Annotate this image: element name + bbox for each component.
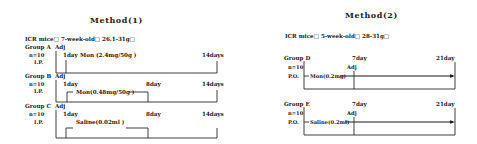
group-e-n: n=10: [288, 110, 304, 116]
group-e-route: P.O.: [288, 119, 299, 125]
group-a-n: n=10: [29, 52, 45, 58]
group-d-label: Group D: [284, 55, 310, 62]
group-a-start-treatment: 1day: [63, 52, 78, 59]
group-c-adj: Adj: [54, 103, 65, 110]
group-d-route: P.O.: [288, 73, 299, 79]
group-d-mid: 7day: [352, 55, 367, 62]
group-e: Group E 7day 21day n=10 Adj P.O. Saline(…: [284, 101, 455, 135]
group-c-route: I.P.: [34, 119, 43, 125]
group-b-end: 14days: [202, 81, 224, 88]
group-d: Group D 7day 21day n=10 Adj P.O. Mon(0.2…: [284, 55, 455, 89]
group-e-adj: Adj: [346, 110, 357, 117]
group-c-end: 14days: [202, 111, 224, 118]
group-b-adj: Adj: [54, 73, 65, 80]
group-b-route: I.P.: [34, 88, 43, 94]
group-c: Group C Adj n=10 I.P. 1day 8day 14days S…: [25, 103, 224, 138]
method2-subjects: ICR mice□ 5-week-old□ 28-31g□: [285, 33, 389, 40]
group-a-route: I.P.: [34, 59, 43, 65]
group-b-n: n=10: [29, 81, 45, 87]
method1-subjects: ICR mice□ 7-week-old□ 26.1-31g□: [25, 36, 135, 43]
method2-title: Method(2): [345, 10, 398, 20]
group-e-label: Group E: [284, 101, 310, 108]
group-b: Group B Adj n=10 I.P. 1day 8day 14days M…: [25, 73, 224, 102]
group-a-adj: Adj: [54, 44, 65, 51]
group-a-label: Group A: [25, 44, 51, 51]
group-b-label: Group B: [25, 73, 51, 80]
arrow-head-icon: [450, 74, 455, 77]
method1-panel: Method(1) ICR mice□ 7-week-old□ 26.1-31g…: [25, 15, 224, 138]
group-c-n: n=10: [29, 111, 45, 117]
diagram-canvas: Method(1) ICR mice□ 7-week-old□ 26.1-31g…: [0, 0, 477, 144]
group-a-treatment: Mon (2.4mg/50g ): [80, 52, 137, 59]
group-a: Group A Adj n=10 I.P. 1day Mon (2.4mg/50…: [25, 44, 224, 73]
group-c-mid: 8day: [146, 111, 161, 118]
group-c-label: Group C: [25, 103, 51, 110]
group-c-start: 1day: [63, 111, 78, 118]
group-e-end: 21day: [436, 101, 455, 108]
group-d-end: 21day: [436, 55, 455, 62]
group-e-treatment: Saline(0.2ml): [310, 119, 350, 125]
group-d-adj: Adj: [346, 64, 357, 71]
method1-title: Method(1): [90, 15, 143, 25]
arrow-head-icon: [450, 120, 455, 123]
group-b-mid: 8day: [146, 81, 161, 88]
group-e-mid: 7day: [352, 101, 367, 108]
group-b-start: 1day: [63, 81, 78, 88]
method2-panel: Method(2) ICR mice□ 5-week-old□ 28-31g□ …: [284, 10, 455, 135]
group-b-treatment: Mon(0.48mg/50g ): [76, 89, 135, 96]
group-a-end: 14days: [202, 52, 224, 59]
protocol-diagram: Method(1) ICR mice□ 7-week-old□ 26.1-31g…: [0, 0, 477, 144]
group-c-treatment: Saline(0.02ml ): [76, 119, 125, 125]
group-d-n: n=10: [288, 64, 304, 70]
